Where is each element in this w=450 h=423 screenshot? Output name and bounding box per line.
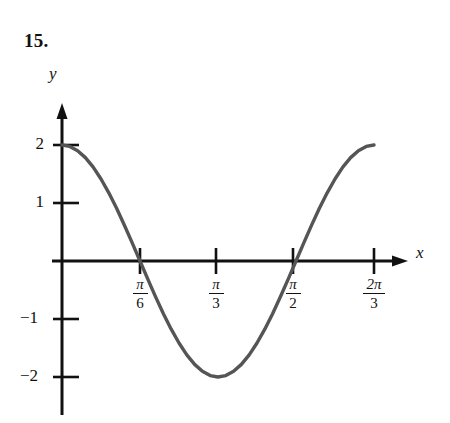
- graph-figure: [0, 0, 450, 423]
- x-axis-arrowhead: [392, 256, 408, 267]
- fraction-numerator: π: [193, 277, 239, 293]
- x-tick-label-2pi-over-3: 2π 3: [351, 277, 397, 311]
- fraction-numerator: 2π: [351, 277, 397, 293]
- y-tick-label-1: 1: [10, 192, 44, 212]
- y-tick-label-minus-1: −1: [4, 308, 38, 328]
- x-tick-label-pi-over-6: π 6: [117, 277, 163, 311]
- fraction-bar: [133, 293, 148, 294]
- fraction-numerator: π: [117, 277, 163, 293]
- fraction-bar: [286, 293, 301, 294]
- fraction-bar: [363, 293, 385, 294]
- x-axis-label: x: [416, 243, 424, 263]
- fraction-denominator: 3: [193, 295, 239, 311]
- fraction-numerator: π: [270, 277, 316, 293]
- y-axis-arrowhead: [57, 103, 68, 119]
- fraction-denominator: 3: [351, 295, 397, 311]
- x-axis: [52, 256, 408, 267]
- fraction-bar: [209, 293, 224, 294]
- fraction-denominator: 2: [270, 295, 316, 311]
- y-axis-label: y: [49, 64, 57, 84]
- fraction-denominator: 6: [117, 295, 163, 311]
- y-axis: [57, 103, 68, 415]
- figure-page: 15. y x 2 1 −1: [0, 0, 450, 423]
- y-tick-label-2: 2: [10, 134, 44, 154]
- y-tick-label-minus-2: −2: [4, 366, 38, 386]
- x-tick-label-pi-over-3: π 3: [193, 277, 239, 311]
- x-tick-label-pi-over-2: π 2: [270, 277, 316, 311]
